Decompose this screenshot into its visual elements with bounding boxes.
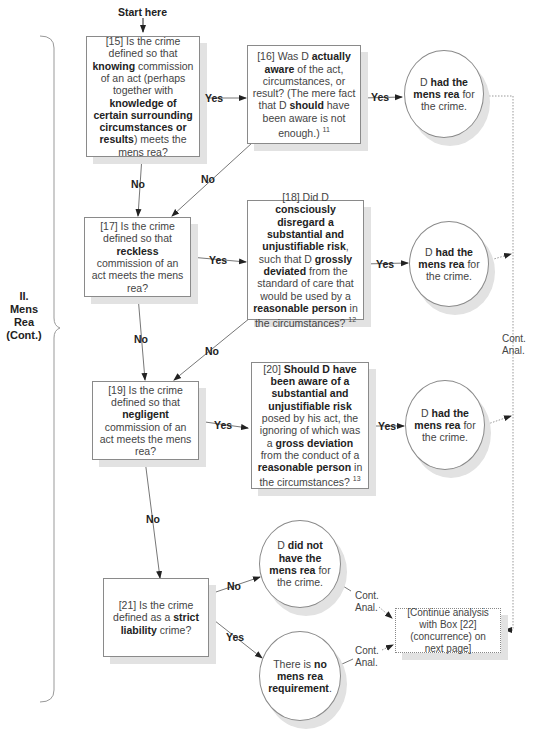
edge-yes-18-c2: Yes	[376, 258, 394, 270]
section-number: II.	[4, 290, 44, 303]
box-15-knowing: [15] Is the crime defined so that knowin…	[86, 36, 200, 157]
outcome-had-mens-rea-2: D had the mens rea for the crime.	[409, 221, 489, 307]
edge-no-18-19: No	[205, 345, 219, 357]
outcome-had-mens-rea-1: D had the mens rea for the crime.	[404, 50, 484, 138]
outcome-had-mens-rea-3: D had the mens rea for the crime.	[405, 380, 485, 470]
box-18-conscious-disregard: [18] Did D consciously disregard a subst…	[247, 200, 364, 320]
outcome-no-mens-rea: D did not have the mens rea for the crim…	[259, 520, 341, 608]
edge-yes-17-18: Yes	[209, 254, 227, 266]
cont-anal-c5: Cont. Anal.	[355, 645, 379, 669]
edge-no-16-17: No	[201, 173, 215, 185]
section-name-2: Rea	[4, 316, 44, 329]
box-17-reckless: [17] Is the crime defined so that reckle…	[84, 217, 191, 297]
edge-yes-21-c5: Yes	[226, 631, 244, 643]
edge-no-21-c4: No	[227, 580, 241, 592]
edge-yes-19-20: Yes	[214, 419, 232, 431]
section-label: II. Mens Rea (Cont.)	[4, 290, 44, 342]
section-cont: (Cont.)	[4, 329, 44, 342]
box-21-strict-liability: [21] Is the crime defined as a strict li…	[103, 578, 209, 657]
outcome-no-requirement: There is no mens rea requirement.	[259, 631, 341, 721]
edge-no-19-21: No	[146, 513, 160, 525]
edge-yes-15-16: Yes	[205, 92, 223, 104]
edge-no-17-19: No	[134, 333, 148, 345]
edge-no-15-17: No	[131, 178, 145, 190]
box-16-actual-awareness: [16] Was D actually aware of the act, ci…	[247, 45, 361, 144]
cont-anal-c4: Cont. Anal.	[355, 590, 379, 614]
edge-yes-16-c1: Yes	[371, 91, 389, 103]
start-label: Start here	[118, 6, 167, 18]
section-name-1: Mens	[4, 303, 44, 316]
cont-anal-right: Cont. Anal.	[502, 333, 526, 357]
box-20-should-have-been-aware: [20] Should D have been aware of a subst…	[251, 362, 369, 489]
continue-box-22: [Continue analysis with Box [22] (concur…	[395, 608, 501, 653]
box-19-negligent: [19] Is the crime defined so that neglig…	[92, 381, 199, 460]
edge-yes-20-c3: Yes	[378, 420, 396, 432]
